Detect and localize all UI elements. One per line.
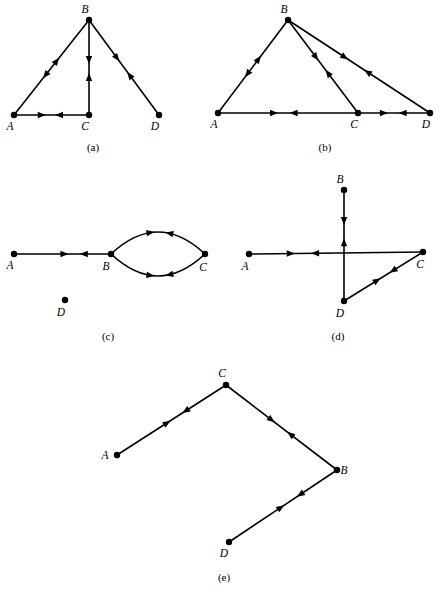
arrow-head-0 — [276, 505, 284, 512]
arrow-head-0 — [340, 52, 348, 59]
panel-c-vertex-a — [11, 251, 17, 257]
edge-line — [14, 20, 89, 115]
panel-b-vertex-c — [355, 110, 361, 116]
panel-b-vertex-label-c: C — [350, 118, 358, 130]
panel-a-vertex-c — [86, 112, 92, 118]
arrow-head-1 — [127, 72, 134, 80]
panel-e-vertex-label-d: D — [219, 547, 229, 559]
panel-c: ABCD(c) — [5, 230, 208, 343]
arrow-head-1 — [341, 238, 347, 246]
figure-root: ABCD(a)ABCD(b)ABCD(c)ABCD(d)ABCD(e) — [0, 0, 443, 596]
panel-b-vertex-d — [427, 110, 433, 116]
panel-e-vertex-c — [223, 382, 229, 388]
arrow-head-1 — [390, 266, 398, 273]
panel-e-vertex-label-b: B — [340, 464, 347, 476]
panel-d-vertex-d — [341, 298, 347, 304]
panel-a-edge-b-c — [86, 20, 92, 115]
panel-c-edge-a-b — [14, 251, 111, 257]
panel-a: ABCD(a) — [5, 3, 162, 154]
panel-e-edge-a-c — [117, 385, 226, 455]
panel-d: ABCD(d) — [240, 173, 426, 343]
edge-line — [344, 252, 423, 301]
arrow-head-1 — [297, 490, 305, 497]
panel-d-vertex-b — [341, 187, 347, 193]
panel-c-caption: (c) — [102, 330, 115, 343]
directed-graphs-figure: ABCD(a)ABCD(b)ABCD(c)ABCD(d)ABCD(e) — [0, 0, 443, 596]
edge-line — [218, 20, 288, 113]
panel-c-vertex-label-b: B — [102, 260, 109, 272]
arrow-head-1 — [182, 406, 190, 413]
panel-b-vertex-a — [215, 110, 221, 116]
arrow-head-0 — [162, 421, 170, 428]
panel-e-vertex-b — [334, 467, 340, 473]
panel-d-edge-b-d — [341, 190, 347, 301]
panel-c-vertex-label-a: A — [5, 259, 14, 271]
panel-c-vertex-label-d: D — [56, 306, 66, 318]
edge-line — [249, 252, 423, 254]
edge-curve — [111, 232, 205, 254]
panel-a-vertex-label-d: D — [150, 120, 160, 132]
panel-c-vertex-c — [202, 251, 208, 257]
arrow-head-0 — [270, 110, 278, 116]
panel-a-vertex-d — [156, 112, 162, 118]
panel-e-vertex-d — [226, 539, 232, 545]
panel-a-vertex-label-a: A — [5, 120, 14, 132]
edge-curve — [111, 254, 205, 276]
panel-e-vertex-a — [114, 452, 120, 458]
panel-c-edge-b-c-lower — [111, 254, 205, 278]
panel-a-vertex-b — [86, 17, 92, 23]
edge-line — [117, 385, 226, 455]
panel-b-edge-c-d — [358, 110, 430, 116]
panel-d-vertex-label-c: C — [416, 258, 424, 270]
arrow-head-0 — [38, 112, 46, 118]
panel-b-vertex-b — [285, 17, 291, 23]
panel-e-edge-c-b — [226, 385, 337, 470]
panel-d-caption: (d) — [332, 330, 345, 343]
panel-a-edge-a-c — [14, 112, 89, 118]
panel-d-vertex-label-d: D — [335, 307, 345, 319]
edge-line — [89, 20, 159, 115]
panel-b: ABCD(b) — [209, 3, 433, 154]
panel-b-edge-b-d — [288, 20, 430, 113]
panel-d-edge-d-c — [344, 252, 423, 301]
panel-c-vertex-label-c: C — [199, 261, 207, 273]
arrow-head-0 — [341, 217, 347, 225]
edge-line — [288, 20, 358, 113]
panel-a-edge-b-d — [89, 20, 159, 115]
panel-b-edge-a-c — [218, 110, 358, 116]
edge-line — [288, 20, 430, 113]
arrow-head-1 — [399, 110, 407, 116]
panel-d-vertex-c — [420, 249, 426, 255]
panel-b-vertex-label-b: B — [280, 3, 287, 15]
panel-a-caption: (a) — [87, 141, 100, 154]
panel-e: ABCD(e) — [100, 367, 347, 584]
panel-c-vertex-b — [108, 251, 114, 257]
panel-d-vertex-label-a: A — [240, 260, 249, 272]
panel-d-vertex-a — [246, 251, 252, 257]
arrow-head-1 — [364, 70, 372, 77]
panel-a-vertex-label-b: B — [81, 3, 88, 15]
panel-d-vertex-label-b: B — [336, 173, 343, 185]
panel-c-edge-b-c-upper — [111, 230, 205, 254]
panel-d-edge-a-c — [249, 250, 423, 257]
panel-b-vertex-label-a: A — [209, 118, 218, 130]
arrow-head-1 — [80, 251, 88, 257]
panel-c-vertex-d — [62, 297, 68, 303]
arrow-head-1 — [311, 250, 319, 256]
edge-line — [226, 385, 337, 470]
panel-b-caption: (b) — [319, 141, 332, 154]
arrow-head-0 — [60, 251, 68, 257]
arrow-head-1 — [55, 112, 63, 118]
panel-e-vertex-label-a: A — [100, 449, 109, 461]
arrow-head-1 — [290, 110, 298, 116]
arrow-head-1 — [86, 73, 92, 81]
panel-a-edge-a-b — [14, 20, 89, 115]
panel-b-vertex-label-d: D — [421, 118, 431, 130]
arrow-head-0 — [86, 56, 92, 64]
panel-a-vertex-label-c: C — [81, 120, 89, 132]
arrow-head-0 — [112, 53, 119, 61]
panel-e-caption: (e) — [218, 571, 231, 584]
panel-e-vertex-label-c: C — [218, 367, 226, 379]
arrow-head-0 — [146, 272, 154, 278]
arrow-head-0 — [372, 278, 380, 285]
